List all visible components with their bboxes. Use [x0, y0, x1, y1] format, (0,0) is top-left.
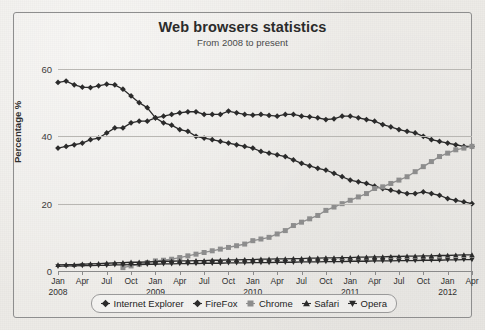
data-point-marker: [470, 144, 475, 149]
data-point-marker: [331, 170, 337, 176]
data-point-marker: [242, 112, 248, 118]
data-point-marker: [88, 137, 94, 143]
triangle-down-marker-icon: [348, 299, 357, 308]
x-tick-month-label: Apr: [368, 276, 381, 286]
data-point-marker: [217, 139, 223, 145]
data-point-marker: [177, 127, 183, 133]
data-point-marker: [429, 159, 434, 164]
data-point-marker: [315, 165, 321, 171]
series-line: [58, 255, 472, 265]
y-tick-label: 40: [22, 131, 52, 142]
data-point-marker: [144, 118, 150, 124]
data-point-marker: [136, 118, 142, 124]
data-point-marker: [429, 137, 435, 143]
data-point-marker: [356, 194, 361, 199]
data-point-marker: [258, 149, 264, 155]
data-point-marker: [258, 112, 264, 118]
data-point-marker: [104, 81, 110, 87]
legend-label: Chrome: [259, 298, 293, 309]
data-point-marker: [96, 83, 102, 89]
legend-entry-opera[interactable]: Opera: [348, 298, 387, 309]
data-point-marker: [307, 216, 312, 221]
data-point-marker: [299, 113, 305, 119]
x-tick-month-label: Oct: [319, 276, 332, 286]
data-point-marker: [185, 253, 190, 258]
x-tick-month-label: Oct: [124, 276, 137, 286]
series-chrome: [120, 144, 474, 270]
x-tick-month-label: Jul: [394, 276, 405, 286]
data-point-marker: [79, 84, 85, 90]
legend-label: Internet Explorer: [114, 298, 184, 309]
legend-entry-internet-explorer[interactable]: Internet Explorer: [101, 298, 184, 309]
x-axis-tick: [82, 271, 83, 275]
data-point-marker: [291, 112, 297, 118]
data-point-marker: [355, 179, 361, 185]
data-point-marker: [209, 112, 215, 118]
x-tick-year-label: 2012: [438, 287, 457, 297]
legend-label: Safari: [314, 298, 339, 309]
y-tick-label: 60: [22, 64, 52, 75]
x-axis-tick: [326, 271, 327, 275]
x-axis-tick: [277, 271, 278, 275]
diamond-marker-icon: [193, 299, 202, 308]
data-point-marker: [348, 198, 353, 203]
data-point-marker: [88, 85, 94, 91]
data-point-marker: [412, 191, 418, 197]
data-point-marker: [282, 112, 288, 118]
data-point-marker: [55, 145, 61, 151]
data-point-marker: [355, 115, 361, 121]
data-point-marker: [453, 142, 459, 148]
data-point-marker: [380, 122, 386, 128]
x-axis-tick: [350, 271, 351, 275]
data-point-marker: [445, 140, 451, 146]
legend-entry-safari[interactable]: Safari: [302, 298, 339, 309]
x-axis-tick: [155, 271, 156, 275]
data-point-marker: [364, 117, 370, 123]
data-point-marker: [307, 114, 313, 120]
x-axis-tick: [448, 271, 449, 275]
series-canvas: [58, 69, 472, 271]
data-point-marker: [267, 235, 272, 240]
data-point-marker: [339, 174, 345, 180]
data-point-marker: [169, 122, 175, 128]
gridline-40: [58, 136, 472, 137]
data-point-marker: [194, 252, 199, 257]
legend-entry-firefox[interactable]: FireFox: [193, 298, 238, 309]
data-point-marker: [299, 220, 304, 225]
x-tick-month-label: Oct: [222, 276, 235, 286]
data-point-marker: [283, 228, 288, 233]
data-point-marker: [315, 115, 321, 121]
data-point-marker: [323, 167, 329, 173]
legend-entry-chrome[interactable]: Chrome: [246, 298, 292, 309]
chart-subtitle: From 2008 to present: [14, 37, 471, 48]
data-point-marker: [323, 208, 328, 213]
data-point-marker: [250, 145, 256, 151]
x-tick-month-label: Oct: [417, 276, 430, 286]
data-point-marker: [201, 112, 207, 118]
data-point-marker: [275, 231, 280, 236]
data-point-marker: [234, 110, 240, 116]
data-point-marker: [250, 238, 255, 243]
x-axis-tick: [180, 271, 181, 275]
x-tick-month-label: Jul: [101, 276, 112, 286]
data-point-marker: [291, 157, 297, 163]
x-axis-tick: [375, 271, 376, 275]
data-point-marker: [71, 142, 77, 148]
data-point-marker: [242, 242, 247, 247]
data-point-marker: [266, 113, 272, 119]
data-point-marker: [421, 164, 426, 169]
data-point-marker: [372, 186, 377, 191]
data-point-marker: [258, 237, 263, 242]
data-point-marker: [413, 169, 418, 174]
data-point-marker: [209, 137, 215, 143]
x-tick-month-label: Apr: [76, 276, 89, 286]
data-point-marker: [63, 78, 69, 84]
data-point-marker: [332, 205, 337, 210]
triangle-up-marker-icon: [302, 299, 311, 308]
data-point-marker: [347, 177, 353, 183]
x-tick-month-label: Jan: [246, 276, 260, 286]
data-point-marker: [404, 128, 410, 134]
data-point-marker: [307, 163, 313, 169]
data-point-marker: [71, 82, 77, 88]
data-point-marker: [55, 80, 61, 86]
